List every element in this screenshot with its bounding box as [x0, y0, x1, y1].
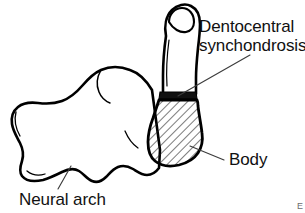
label-dentocentral-line1: Dentocentral	[199, 17, 305, 36]
label-dentocentral-line2: synchondrosis	[199, 36, 305, 55]
label-dentocentral-synchondrosis: Dentocentral synchondrosis	[199, 17, 305, 55]
dens-shape	[163, 5, 200, 94]
figure-container: Dentocentral synchondrosis Body Neural a…	[0, 0, 305, 213]
neural-arch-shape	[12, 67, 160, 182]
body-shape	[148, 100, 202, 166]
neural-arch-outline	[12, 67, 160, 182]
figure-corner-mark: E	[297, 201, 304, 211]
body-outline	[148, 100, 202, 166]
label-body: Body	[229, 150, 267, 169]
label-neural-arch: Neural arch	[19, 190, 106, 209]
